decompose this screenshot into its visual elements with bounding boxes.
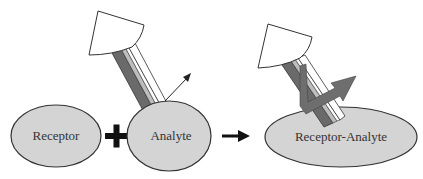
receptor-label: Receptor (33, 128, 81, 143)
analyte-label: Analyte (150, 128, 191, 143)
complex-label: Receptor-Analyte (295, 129, 387, 144)
probe-bound (258, 24, 356, 127)
diagram-canvas: Receptor Analyte (0, 0, 423, 179)
analyte-node: Analyte (127, 101, 211, 171)
probe-unbound (89, 11, 191, 116)
reaction-arrow-icon (222, 130, 250, 142)
binding-diagram: Receptor Analyte (0, 0, 423, 179)
receptor-node: Receptor (11, 105, 101, 167)
plus-icon (105, 125, 128, 148)
emission-arrow-small-icon (165, 73, 191, 103)
